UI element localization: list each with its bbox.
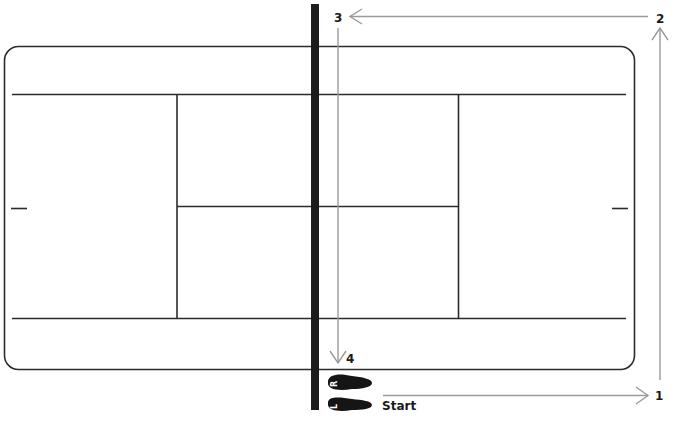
tennis-court-diagram: 1 2 3 4 R L Start xyxy=(0,0,681,423)
court xyxy=(5,47,635,370)
waypoint-label-3: 3 xyxy=(334,11,342,25)
waypoint-label-4: 4 xyxy=(346,352,354,366)
waypoint-label-2: 2 xyxy=(656,12,664,26)
right-foot-icon: R xyxy=(328,374,372,390)
waypoint-label-1: 1 xyxy=(655,389,663,403)
left-foot-icon: L xyxy=(328,397,372,410)
left-foot-letter: L xyxy=(330,404,339,409)
net xyxy=(311,4,319,410)
right-foot-letter: R xyxy=(330,381,339,387)
start-label: Start xyxy=(382,399,416,413)
